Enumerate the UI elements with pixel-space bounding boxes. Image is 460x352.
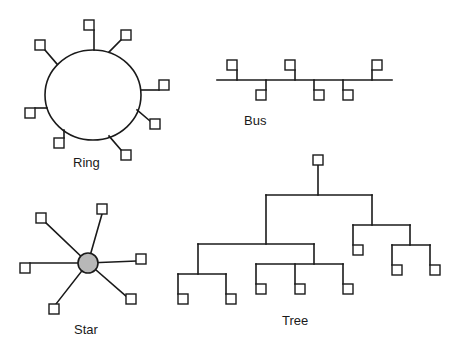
node-icon — [97, 204, 107, 214]
node-icon — [392, 265, 402, 275]
ring-link — [137, 110, 150, 121]
node-icon — [372, 60, 382, 70]
node-icon — [136, 254, 146, 264]
node-icon — [121, 30, 131, 40]
node-icon — [285, 60, 295, 70]
node-icon — [121, 150, 131, 160]
node-icon — [226, 294, 236, 304]
ring-link — [45, 50, 57, 64]
node-icon — [256, 284, 266, 294]
node-icon — [35, 40, 45, 50]
node-icon — [353, 245, 363, 255]
node-icon — [49, 304, 59, 314]
ring-link — [109, 136, 121, 150]
star-hub-icon — [78, 253, 98, 273]
node-icon — [295, 284, 305, 294]
node-icon — [430, 265, 440, 275]
node-icon — [150, 119, 160, 129]
bus-label: Bus — [244, 113, 267, 128]
node-icon — [54, 138, 64, 148]
ring-circle — [45, 50, 141, 140]
ring-topology — [25, 20, 169, 160]
node-icon — [36, 213, 46, 223]
ring-label: Ring — [73, 155, 100, 170]
node-icon — [314, 90, 324, 100]
star-topology — [20, 204, 146, 314]
ring-link — [109, 40, 121, 52]
node-icon — [343, 90, 353, 100]
node-icon — [178, 294, 188, 304]
bus-topology — [217, 60, 392, 100]
node-icon — [343, 284, 353, 294]
node-icon — [313, 155, 323, 165]
node-icon — [227, 60, 237, 70]
node-icon — [256, 90, 266, 100]
topology-diagram: Ring Bus Star Tree — [0, 0, 460, 352]
node-icon — [25, 108, 35, 118]
node-icon — [126, 294, 136, 304]
tree-topology — [178, 155, 440, 304]
node-icon — [159, 80, 169, 90]
tree-label: Tree — [282, 313, 308, 328]
star-label: Star — [74, 322, 99, 337]
node-icon — [20, 263, 30, 273]
node-icon — [84, 20, 94, 30]
